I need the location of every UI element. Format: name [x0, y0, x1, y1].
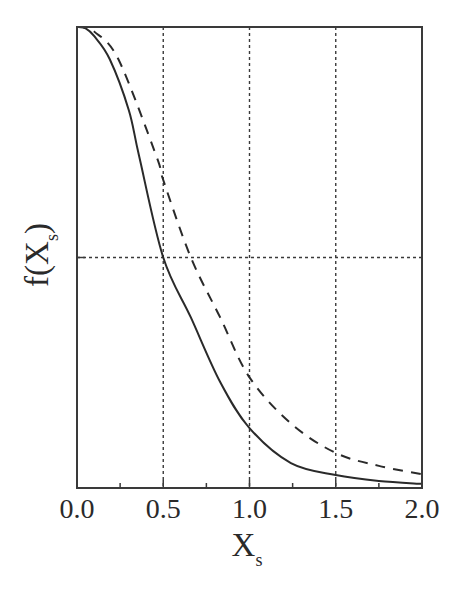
x-tick-label: 1.5 — [318, 493, 353, 524]
y-axis-label-main: f(X — [19, 241, 56, 287]
x-axis-label-subscript: s — [255, 550, 262, 570]
x-axis-label: Xs — [232, 527, 263, 570]
x-tick-label: 0.5 — [146, 493, 181, 524]
y-axis-label: f(Xs) — [19, 223, 62, 287]
x-tick-label: 1.0 — [232, 493, 267, 524]
grid-lines — [77, 27, 422, 488]
x-tick-labels: 0.00.51.01.52.0 — [60, 493, 440, 524]
x-tick-label: 2.0 — [405, 493, 440, 524]
x-axis-label-main: X — [232, 527, 256, 563]
y-axis-label-subscript: s — [42, 234, 62, 241]
x-tick-label: 0.0 — [60, 493, 95, 524]
chart: 0.00.51.01.52.0 Xs f(Xs) — [0, 0, 465, 598]
y-axis-label-close: ) — [19, 223, 56, 234]
